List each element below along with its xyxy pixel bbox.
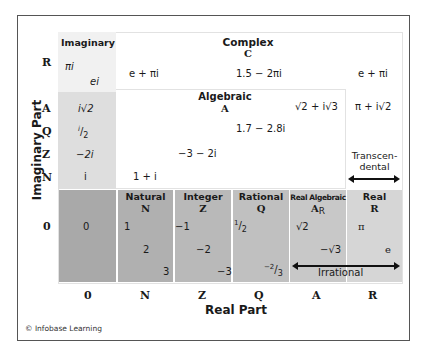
example-1-plus-i: 1 + i	[133, 171, 157, 182]
frac-num: 1	[234, 219, 238, 227]
example-neg2i: −2i	[76, 149, 94, 160]
integer-neg2: −2	[196, 244, 211, 255]
y-tick-Z: Z	[42, 148, 50, 161]
rational-symbol: Q	[233, 203, 289, 214]
example-e-i: ei	[90, 76, 99, 87]
natural-2: 2	[143, 244, 149, 255]
integer-neg1: −1	[175, 221, 190, 232]
irrational-label: Irrational	[318, 267, 363, 278]
example-1-7-minus-2-8i: 1.7 − 2.8i	[236, 123, 285, 134]
x-tick-R: R	[368, 289, 377, 302]
x-tick-Z: Z	[198, 289, 206, 302]
real-e: e	[385, 244, 391, 255]
example-i: i	[84, 171, 87, 182]
y-tick-N: N	[42, 171, 52, 184]
rational-label: Rational	[233, 192, 289, 202]
integer-symbol: Z	[175, 203, 231, 214]
real-pi: π	[358, 221, 365, 232]
complex-symbol: C	[218, 48, 278, 59]
rational-neg-two-thirds: −2/3	[264, 263, 283, 278]
y-tick-R: R	[42, 56, 51, 69]
real-algebraic-label: Real Algebraic	[289, 193, 347, 203]
algebraic-label: Algebraic	[195, 92, 255, 102]
y-tick-0: 0	[43, 220, 51, 233]
imaginary-label: Imaginary	[59, 38, 117, 48]
y-tick-A: A	[42, 102, 51, 115]
example-i-sqrt2: i√2	[78, 103, 94, 114]
complex-label: Complex	[218, 37, 278, 47]
transcendental-label-2: dental	[346, 162, 403, 172]
real-algebraic-symbol: AR	[290, 203, 346, 215]
ar-main: A	[311, 203, 319, 214]
integer-label: Integer	[175, 192, 231, 202]
frac-den: 2	[83, 131, 88, 140]
example-e-plus-pi-i: e + πi	[129, 68, 159, 79]
frac-den: 2	[242, 225, 247, 234]
example-pi-plus-i-sqrt2: π + i√2	[355, 101, 391, 112]
credit-text: © Infobase Learning	[25, 324, 102, 333]
frac-num: −2	[264, 263, 274, 271]
transcendental-arrow	[352, 178, 396, 180]
zero-cell	[59, 190, 116, 282]
natural-3: 3	[163, 266, 169, 277]
natural-1: 1	[124, 221, 130, 232]
real-symbol: R	[347, 203, 402, 214]
x-tick-N: N	[140, 289, 150, 302]
ar-sub: R	[319, 206, 325, 216]
x-tick-Q: Q	[254, 289, 264, 302]
example-1-5-minus-2pi-i: 1.5 − 2πi	[236, 68, 282, 79]
y-tick-Q: Q	[42, 125, 52, 138]
example-i-half: i/2	[78, 125, 88, 140]
real-label: Real	[347, 192, 402, 202]
natural-symbol: N	[118, 203, 173, 214]
real-algebraic-neg-sqrt3: −√3	[320, 244, 341, 255]
x-tick-0: 0	[84, 289, 92, 302]
x-tick-A: A	[312, 289, 321, 302]
example-neg3-minus-2i: −3 − 2i	[178, 148, 217, 159]
example-e-plus-pi-i-right: e + πi	[358, 68, 388, 79]
real-algebraic-sqrt2: √2	[296, 221, 309, 232]
x-axis-label: Real Part	[205, 303, 267, 317]
transcendental-label-1: Transcen-	[346, 151, 403, 161]
integer-neg3: −3	[217, 266, 232, 277]
rational-half: 1/2	[234, 219, 247, 234]
natural-label: Natural	[118, 192, 173, 202]
algebraic-symbol: A	[195, 103, 255, 114]
example-pi-i: πi	[65, 61, 74, 72]
example-sqrt2-plus-i-sqrt3: √2 + i√3	[295, 101, 338, 112]
frac-den: 3	[278, 269, 283, 278]
zero-value: 0	[83, 221, 89, 232]
